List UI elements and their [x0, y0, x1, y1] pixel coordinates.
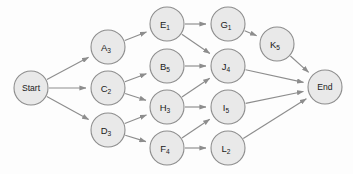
edge-K5-to-End — [290, 56, 308, 72]
node-layer: StartA3C2D3E1B5H3F4G1J4I5L2K5End — [14, 7, 342, 165]
edge-A3-to-E1 — [125, 32, 147, 40]
edge-I5-to-End — [246, 91, 304, 103]
node-E1[interactable]: E1 — [150, 7, 184, 41]
node-L2[interactable]: L2 — [211, 131, 245, 165]
edge-E1-to-J4 — [182, 34, 210, 53]
node-D3[interactable]: D3 — [91, 113, 125, 147]
edge-H3-to-J4 — [182, 78, 210, 97]
node-C2[interactable]: C2 — [91, 71, 125, 105]
edge-D3-to-F4 — [125, 135, 146, 141]
node-B5[interactable]: B5 — [150, 49, 184, 83]
node-H3[interactable]: H3 — [150, 90, 184, 124]
node-A3[interactable]: A3 — [91, 30, 125, 64]
node-End[interactable]: End — [308, 70, 342, 104]
node-I5[interactable]: I5 — [211, 90, 245, 124]
node-label-Start: Start — [22, 83, 41, 93]
node-F4[interactable]: F4 — [150, 131, 184, 165]
edge-G1-to-K5 — [245, 31, 257, 36]
edge-Start-to-A3 — [47, 57, 89, 79]
node-label-End: End — [317, 82, 333, 92]
edge-D3-to-H3 — [125, 115, 147, 123]
node-Start[interactable]: Start — [14, 71, 48, 105]
edge-L2-to-End — [243, 99, 306, 139]
edge-F4-to-I5 — [182, 119, 210, 138]
edge-C2-to-H3 — [125, 94, 146, 101]
edge-C2-to-B5 — [125, 74, 147, 82]
node-K5[interactable]: K5 — [260, 27, 294, 61]
diagram-canvas: StartA3C2D3E1B5H3F4G1J4I5L2K5End — [0, 0, 353, 174]
edge-Start-to-D3 — [47, 97, 89, 120]
graph-svg: StartA3C2D3E1B5H3F4G1J4I5L2K5End — [0, 0, 353, 174]
node-J4[interactable]: J4 — [211, 49, 245, 83]
node-G1[interactable]: G1 — [211, 7, 245, 41]
edge-J4-to-End — [246, 70, 304, 83]
